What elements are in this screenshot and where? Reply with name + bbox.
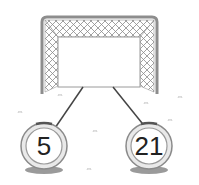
connector-line-right	[113, 87, 146, 128]
ball-right-value: 21	[127, 131, 171, 161]
connector-line-left	[55, 87, 83, 128]
ball-left-value: 5	[22, 131, 66, 161]
goal	[42, 17, 157, 94]
